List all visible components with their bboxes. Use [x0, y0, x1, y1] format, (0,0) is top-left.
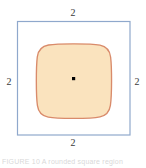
rounded-square-region	[36, 44, 111, 119]
dimension-label-top: 2	[0, 8, 146, 18]
dimension-label-bottom: 2	[0, 138, 146, 148]
dimension-label-right: 2	[131, 77, 143, 87]
figure-caption-fragment: FIGURE 10 A rounded square region	[2, 158, 142, 166]
center-point-marker	[72, 77, 75, 80]
dimension-label-left: 2	[3, 77, 15, 87]
